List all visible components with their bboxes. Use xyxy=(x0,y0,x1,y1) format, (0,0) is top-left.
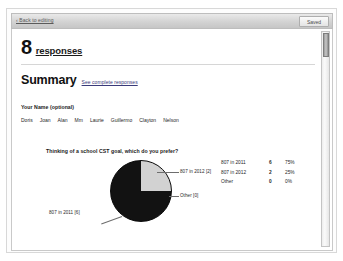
responses-heading: 8 responses xyxy=(21,37,82,57)
list-item: Guillermo xyxy=(111,117,132,123)
responses-content: 8 responses Summary See complete respons… xyxy=(11,29,333,251)
response-stats-table: 807 in 2011 6 75% 807 in 2012 2 25% Othe… xyxy=(221,158,307,186)
question-title-your-name: Your Name (optional) xyxy=(21,104,74,110)
stat-label: Other xyxy=(221,177,269,186)
list-item: Nelson xyxy=(163,117,179,123)
callout-leader-2012 xyxy=(157,172,179,173)
pie-chart xyxy=(110,160,172,222)
question-title-cst-goal: Thinking of a school CST goal, which do … xyxy=(46,148,178,154)
table-row: Other 0 0% xyxy=(221,177,307,186)
list-item: Laurie xyxy=(90,117,104,123)
vertical-scrollbar[interactable] xyxy=(321,31,330,247)
stat-label: 807 in 2011 xyxy=(221,158,269,167)
table-row: 807 in 2012 2 25% xyxy=(221,167,307,176)
header-divider xyxy=(21,64,315,65)
back-to-editing-link[interactable]: ‹ Back to editing xyxy=(16,17,54,23)
name-response-list: Doris Joan Alan Mm Laurie Guillermo Clay… xyxy=(21,117,179,123)
callout-leader-other xyxy=(169,196,179,197)
pie-chart-circle xyxy=(110,160,172,222)
screenshot-root: ‹ Back to editing Saved 8 responses Summ… xyxy=(0,0,343,261)
summary-heading: Summary See complete responses xyxy=(21,73,138,87)
stat-percent: 75% xyxy=(285,158,307,167)
form-toolbar xyxy=(11,13,333,29)
see-complete-responses-link[interactable]: See complete responses xyxy=(82,79,138,85)
callout-label-2011: 807 in 2011 [6] xyxy=(49,210,80,215)
list-item: Alan xyxy=(58,117,68,123)
stat-label: 807 in 2012 xyxy=(221,167,269,176)
stat-count: 0 xyxy=(269,177,285,186)
page-title: Summary xyxy=(21,73,77,87)
list-item: Joan xyxy=(40,117,51,123)
list-item: Clayton xyxy=(139,117,156,123)
list-item: Doris xyxy=(21,117,33,123)
saved-button[interactable]: Saved xyxy=(299,16,329,27)
callout-label-2012: 807 in 2012 [2] xyxy=(180,169,211,174)
table-row: 807 in 2011 6 75% xyxy=(221,158,307,167)
list-item: Mm xyxy=(75,117,83,123)
callout-label-other: Other [0] xyxy=(180,193,198,198)
response-count: 8 xyxy=(21,37,32,57)
responses-label-link[interactable]: responses xyxy=(36,45,83,56)
stat-percent: 0% xyxy=(285,177,307,186)
stat-count: 2 xyxy=(269,167,285,176)
stat-percent: 25% xyxy=(285,167,307,176)
stat-count: 6 xyxy=(269,158,285,167)
scrollbar-thumb[interactable] xyxy=(323,33,329,57)
